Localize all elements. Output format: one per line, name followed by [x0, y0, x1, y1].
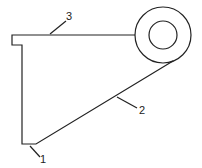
inner-hole	[149, 21, 177, 49]
leader-3	[50, 21, 66, 34]
bracket-outline	[12, 35, 173, 144]
label-1: 1	[40, 153, 46, 165]
leader-1	[30, 146, 40, 157]
label-2: 2	[139, 104, 145, 116]
outer-ring	[135, 7, 191, 63]
leader-2	[117, 97, 137, 108]
bracket-diagram: 1 2 3	[0, 0, 202, 168]
label-3: 3	[66, 10, 72, 22]
